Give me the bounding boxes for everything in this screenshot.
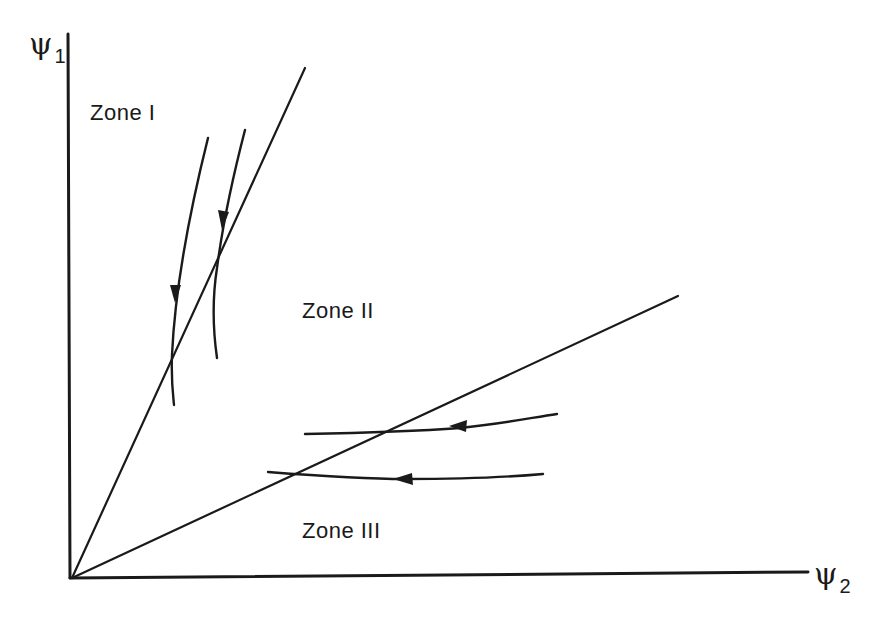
trajectory-3 bbox=[305, 414, 557, 434]
y-axis-symbol: ψ bbox=[29, 26, 53, 61]
zone-3-label: Zone III bbox=[302, 518, 381, 544]
zone-1-label: Zone I bbox=[90, 100, 155, 126]
arrow-left-icon bbox=[449, 420, 467, 432]
x-axis-symbol: ψ bbox=[814, 556, 838, 591]
x-axis-subscript: 2 bbox=[840, 575, 851, 597]
y-axis-label: ψ1 bbox=[29, 26, 66, 61]
arrow-left-icon bbox=[393, 473, 413, 485]
y-axis bbox=[68, 34, 70, 578]
zone-2-label: Zone II bbox=[302, 298, 374, 324]
upper-boundary-line bbox=[72, 68, 305, 578]
trajectory-1 bbox=[172, 138, 208, 405]
x-axis-label: ψ2 bbox=[814, 556, 851, 591]
phase-diagram bbox=[0, 0, 878, 619]
trajectory-2 bbox=[214, 130, 245, 358]
arrow-down-icon bbox=[170, 285, 181, 303]
y-axis-subscript: 1 bbox=[55, 45, 66, 67]
x-axis bbox=[70, 572, 808, 578]
